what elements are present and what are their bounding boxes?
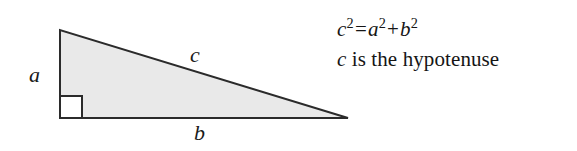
- formula-term1-variable: a: [368, 17, 379, 41]
- formula-plus-sign: +: [386, 17, 400, 41]
- formula-term1-exponent: 2: [379, 15, 386, 31]
- label-leg-a: a: [29, 64, 40, 86]
- triangle-shape: [60, 30, 348, 118]
- formula-lhs-exponent: 2: [347, 15, 354, 31]
- description-variable: c: [337, 47, 346, 71]
- formula-term2-variable: b: [400, 17, 411, 41]
- formula-lhs-variable: c: [337, 17, 347, 41]
- pythagorean-theorem-figure: a b c c2=a2+b2 c is the hypotenuse: [0, 0, 577, 151]
- label-hypotenuse-c: c: [190, 44, 200, 66]
- description-text: is the hypotenuse: [346, 47, 499, 71]
- formula-term2-exponent: 2: [411, 15, 418, 31]
- annotation-text-block: c2=a2+b2 c is the hypotenuse: [337, 14, 569, 74]
- hypotenuse-description: c is the hypotenuse: [337, 44, 569, 74]
- right-angle-marker-fill: [61, 97, 81, 117]
- pythagorean-formula: c2=a2+b2: [337, 14, 569, 44]
- formula-equals-sign: =: [354, 17, 368, 41]
- label-leg-b: b: [194, 122, 205, 144]
